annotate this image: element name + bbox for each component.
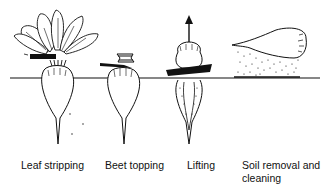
step-label-beet-topping: Beet topping <box>105 159 164 172</box>
stripper-bar <box>30 54 56 59</box>
beet-root <box>42 66 74 145</box>
beet-topping-illustration <box>100 54 140 144</box>
step-label-lifting: Lifting <box>187 159 215 172</box>
beet-root <box>108 68 140 145</box>
step-label-soil-removal: Soil removal and cleaning <box>242 159 328 185</box>
cut-crown-icon <box>117 54 134 62</box>
soil-removal-illustration <box>232 28 306 77</box>
beet-leaves-icon <box>14 10 98 54</box>
cleaned-beet <box>232 28 306 58</box>
step-label-leaf-stripping: Leaf stripping <box>21 159 84 172</box>
soil-cavity <box>176 80 202 144</box>
leaf-stripping-illustration <box>14 10 98 144</box>
lifted-beet <box>176 42 202 68</box>
up-arrow-icon <box>185 15 193 42</box>
lifting-illustration <box>166 15 212 144</box>
